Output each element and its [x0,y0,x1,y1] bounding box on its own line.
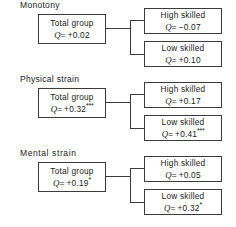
box-value: Q= −0.07 [165,20,200,32]
connector-spine [130,94,131,129]
box-title: Total group [50,18,93,28]
box-value: Q= +0.32* [164,201,202,213]
box-low-skilled-monotony: Low skilled Q= +0.10 [144,41,222,67]
diagram-section-physical-strain: Physical strain Total group Q= +0.32*** … [0,74,236,148]
significance-stars: * [89,176,91,183]
connector-branch-high [130,168,144,169]
box-low-skilled-mental-strain: Low skilled Q= +0.32* [144,189,222,215]
box-title: High skilled [161,10,206,20]
box-value: Q= +0.02 [54,28,89,40]
diagram-canvas: Monotony Total group Q= +0.02 High skill… [0,0,236,227]
box-title: Total group [50,92,93,102]
box-value: Q= +0.32*** [51,102,94,114]
connector-branch-high [130,20,144,21]
box-title: High skilled [161,84,206,94]
section-label-physical-strain: Physical strain [20,74,79,84]
section-label-mental-strain: Mental strain [20,148,76,158]
connector-stem [106,102,130,103]
connector-stem [106,176,130,177]
q-value: = +0.32 [57,104,86,114]
connector-spine [130,20,131,55]
box-value: Q= +0.10 [165,53,200,65]
box-title: Total group [50,166,93,176]
connector-branch-low [130,202,144,203]
box-high-skilled-monotony: High skilled Q= −0.07 [144,8,222,34]
diagram-section-mental-strain: Mental strain Total group Q= +0.19* High… [0,148,236,222]
q-value: = +0.19 [60,178,89,188]
connector-branch-low [130,54,144,55]
q-value: = +0.32 [171,203,200,213]
q-value: = +0.02 [61,30,90,40]
connector-stem [106,28,130,29]
section-label-monotony: Monotony [20,0,60,10]
box-value: Q= +0.05 [165,168,200,180]
box-title: Low skilled [162,117,205,127]
q-value: = +0.41 [168,129,197,139]
connector-spine [130,168,131,203]
box-total-group-monotony: Total group Q= +0.02 [38,14,106,44]
box-title: Low skilled [162,191,205,201]
box-value: Q= +0.41*** [162,127,205,139]
box-total-group-mental-strain: Total group Q= +0.19* [38,162,106,192]
box-value: Q= +0.17 [165,94,200,106]
q-value: = −0.07 [172,22,201,32]
connector-branch-low [130,128,144,129]
q-value: = +0.10 [172,55,201,65]
diagram-section-monotony: Monotony Total group Q= +0.02 High skill… [0,0,236,74]
box-title: Low skilled [162,43,205,53]
significance-stars: *** [86,102,93,109]
q-value: = +0.05 [172,170,201,180]
box-high-skilled-physical-strain: High skilled Q= +0.17 [144,82,222,108]
connector-branch-high [130,94,144,95]
box-title: High skilled [161,158,206,168]
significance-stars: * [200,201,202,208]
box-high-skilled-mental-strain: High skilled Q= +0.05 [144,156,222,182]
q-value: = +0.17 [172,96,201,106]
box-value: Q= +0.19* [53,176,91,188]
significance-stars: *** [197,127,204,134]
box-low-skilled-physical-strain: Low skilled Q= +0.41*** [144,115,222,141]
box-total-group-physical-strain: Total group Q= +0.32*** [38,88,106,118]
